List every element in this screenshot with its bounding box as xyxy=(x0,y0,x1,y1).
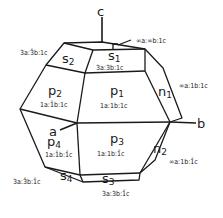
top-face-leader xyxy=(118,40,131,45)
svg-text:1a:1b:1̄c: 1a:1b:1̄c xyxy=(97,149,125,158)
svg-text:s2: s2 xyxy=(62,51,75,67)
face-p3: p3 1a:1b:1̄c xyxy=(97,131,125,158)
top-face-index: ∞a:∞b:1c xyxy=(136,37,167,45)
edge-p1-p2 xyxy=(77,73,85,123)
face-s4: s4 3a:3̄b:1̄c xyxy=(13,168,73,186)
edge-s1-s2 xyxy=(85,50,93,73)
face-p1: p1 1a:1b:1c xyxy=(100,83,128,110)
a-axis xyxy=(60,123,77,130)
svg-text:∞a:1b:1c: ∞a:1b:1c xyxy=(179,82,208,90)
face-s1: s1 3a:3b:1c xyxy=(96,48,124,72)
edge-s2-p2 xyxy=(46,65,85,73)
svg-text:p1: p1 xyxy=(110,83,124,99)
c-axis-label: c xyxy=(97,4,104,19)
face-p4: p4 1a:1̄b:1̄c xyxy=(45,134,73,159)
svg-text:3a:3b:1̄c: 3a:3b:1̄c xyxy=(102,189,130,198)
edge-p3-s3 xyxy=(80,173,140,175)
svg-text:s4: s4 xyxy=(60,168,73,184)
svg-text:p2: p2 xyxy=(48,83,62,99)
svg-text:1a:1b:1c: 1a:1b:1c xyxy=(100,102,128,110)
svg-text:1a:1̄b:1̄c: 1a:1̄b:1̄c xyxy=(45,150,73,159)
edge-p1-p3 xyxy=(77,122,170,123)
edge-p2-p4 xyxy=(20,109,77,123)
svg-text:p3: p3 xyxy=(110,131,124,147)
face-s3: s3 3a:3b:1̄c xyxy=(102,171,130,198)
crystal-diagram: c a b s2 3a:3̄b:1c s1 3a:3b:1c ∞a:∞b:1c … xyxy=(0,0,223,218)
svg-text:s1: s1 xyxy=(108,48,121,64)
svg-text:n2: n2 xyxy=(153,141,167,157)
face-n1: n1 ∞a:1b:1c xyxy=(158,82,208,100)
svg-text:1a:1̄b:1c: 1a:1̄b:1c xyxy=(40,100,68,109)
svg-text:∞a:1b:1̄c: ∞a:1b:1̄c xyxy=(169,157,198,166)
svg-text:3a:3̄b:1̄c: 3a:3̄b:1̄c xyxy=(13,177,41,186)
face-p2: p2 1a:1̄b:1c xyxy=(40,83,68,109)
svg-text:3a:3̄b:1c: 3a:3̄b:1c xyxy=(20,48,48,57)
face-n2: n2 ∞a:1b:1̄c xyxy=(153,141,198,166)
edge-p3-p4 xyxy=(77,123,80,175)
svg-text:3a:3b:1c: 3a:3b:1c xyxy=(96,64,124,72)
b-axis-label: b xyxy=(197,116,205,131)
b-axis xyxy=(170,122,196,123)
crystal-outline xyxy=(20,42,182,182)
svg-text:p4: p4 xyxy=(47,134,61,150)
